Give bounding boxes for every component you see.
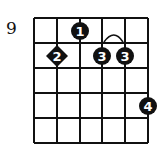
chord-grid: 1 2 3 3 4 bbox=[0, 0, 167, 148]
finger-number: 3 bbox=[97, 49, 106, 64]
finger-number: 1 bbox=[75, 24, 84, 39]
finger-marker-4: 4 bbox=[139, 97, 157, 115]
finger-marker-2-diamond: 2 bbox=[46, 45, 68, 67]
barre-arc bbox=[104, 35, 123, 42]
finger-number: 3 bbox=[120, 49, 129, 64]
fretboard-lines bbox=[34, 18, 148, 143]
finger-number: 2 bbox=[52, 49, 61, 64]
finger-number: 4 bbox=[143, 99, 152, 114]
finger-marker-1: 1 bbox=[71, 22, 89, 40]
finger-marker-3b: 3 bbox=[116, 47, 134, 65]
finger-marker-3a: 3 bbox=[93, 47, 111, 65]
